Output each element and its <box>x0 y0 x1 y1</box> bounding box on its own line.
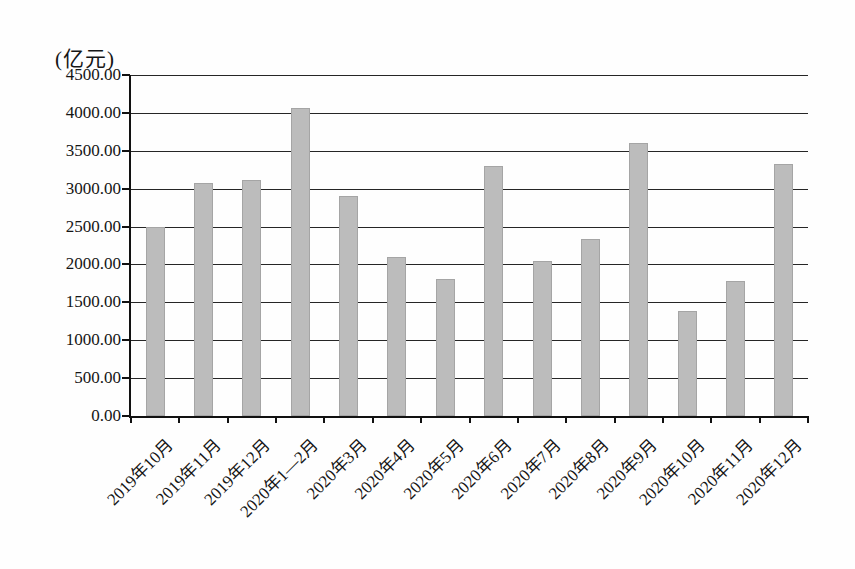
x-tick-mark <box>517 416 519 423</box>
y-tick-label: 3500.00 <box>39 142 121 160</box>
gridline <box>131 189 808 190</box>
bar-2020年7月 <box>533 261 552 416</box>
gridline <box>131 151 808 152</box>
bar-2020年10月 <box>678 311 697 416</box>
x-tick-mark <box>759 416 761 423</box>
x-tick-mark <box>420 416 422 423</box>
y-tick-mark <box>122 74 130 76</box>
y-tick-label: 3000.00 <box>39 180 121 198</box>
y-tick-mark <box>122 339 130 341</box>
bar-2020年11月 <box>726 281 745 416</box>
y-axis-line <box>129 75 131 418</box>
bar-2020年5月 <box>436 279 455 416</box>
gridline <box>131 113 808 114</box>
gridline <box>131 378 808 379</box>
x-tick-mark <box>662 416 664 423</box>
x-tick-mark <box>614 416 616 423</box>
y-tick-mark <box>122 188 130 190</box>
y-tick-label: 0.00 <box>39 407 121 425</box>
y-tick-mark <box>122 112 130 114</box>
bar-2019年12月 <box>242 180 261 416</box>
plot-area <box>131 75 808 416</box>
bar-2020年12月 <box>774 164 793 416</box>
x-tick-mark <box>469 416 471 423</box>
x-tick-mark <box>275 416 277 423</box>
bar-2020年3月 <box>339 196 358 416</box>
x-tick-mark <box>372 416 374 423</box>
y-tick-mark <box>122 301 130 303</box>
x-tick-mark <box>227 416 229 423</box>
y-tick-label: 500.00 <box>39 369 121 387</box>
x-tick-mark <box>710 416 712 423</box>
x-tick-mark <box>807 416 809 423</box>
x-tick-mark <box>130 416 132 423</box>
y-tick-mark <box>122 150 130 152</box>
gridline <box>131 264 808 265</box>
chart-page: (亿元) 4500.004000.003500.003000.002500.00… <box>0 0 855 569</box>
gridline <box>131 340 808 341</box>
y-tick-mark <box>122 263 130 265</box>
bar-2020年1—2月 <box>291 108 310 416</box>
y-tick-label: 1500.00 <box>39 293 121 311</box>
y-tick-label: 2500.00 <box>39 218 121 236</box>
bar-2019年11月 <box>194 183 213 416</box>
y-tick-label: 2000.00 <box>39 255 121 273</box>
gridline <box>131 227 808 228</box>
x-tick-mark <box>565 416 567 423</box>
y-tick-label: 4500.00 <box>39 66 121 84</box>
y-tick-mark <box>122 377 130 379</box>
bar-2020年8月 <box>581 239 600 416</box>
y-tick-mark <box>122 415 130 417</box>
gridline <box>131 302 808 303</box>
bar-2020年9月 <box>629 143 648 416</box>
bar-2019年10月 <box>146 227 165 416</box>
gridline <box>131 75 808 76</box>
x-tick-mark <box>323 416 325 423</box>
y-tick-label: 4000.00 <box>39 104 121 122</box>
x-tick-mark <box>178 416 180 423</box>
y-tick-label: 1000.00 <box>39 331 121 349</box>
y-tick-mark <box>122 226 130 228</box>
bar-2020年6月 <box>484 166 503 416</box>
bar-2020年4月 <box>387 257 406 416</box>
